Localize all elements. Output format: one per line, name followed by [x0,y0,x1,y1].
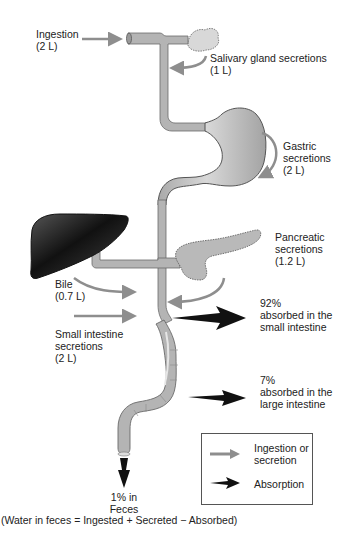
label-line: Gastric [283,140,331,152]
salivary-gland [188,28,219,51]
label-line: 7% [260,374,332,386]
label-line: Ingestion [36,28,79,40]
pancreatic-arrow [172,278,224,302]
label-line: secretions [275,243,325,255]
label-line: 92% [260,297,332,309]
label-line: (2 L) [36,40,79,52]
small-intestine-secretions-label: Small intestine secretions (2 L) [55,328,123,364]
large-intestine [118,320,178,456]
label-line: Bile [55,278,85,290]
legend-item-secretion: Ingestion or secretion [254,442,309,466]
label-line: secretions [283,152,331,164]
label-line: small intestine [260,321,332,333]
liver [31,214,128,279]
label-line: Salivary gland secretions [210,52,327,64]
label-line: (2 L) [55,352,123,364]
gray-arrow-icon [208,448,244,460]
stomach [158,108,266,205]
salivary-arrow [174,56,206,68]
pancreatic-label: Pancreatic secretions (1.2 L) [275,231,325,267]
gastric-label: Gastric secretions (2 L) [283,140,331,176]
label-line: absorbed in the [260,309,332,321]
legend-item-absorption: Absorption [254,478,304,490]
bile-label: Bile (0.7 L) [55,278,85,302]
large-intestine-absorption-label: 7% absorbed in the large intestine [260,374,332,410]
legend-label: Absorption [254,478,304,490]
salivary-label: Salivary gland secretions (1 L) [210,52,327,76]
equation-text: (Water in feces = Ingested + Secreted − … [1,514,237,526]
label-line: absorbed in the [260,386,332,398]
label-line: large intestine [260,398,332,410]
label-line: secretions [55,340,123,352]
pancreas [176,230,261,280]
label-line: Pancreatic [275,231,325,243]
legend-label: Ingestion or [254,442,309,454]
label-line: 1% in [104,491,144,503]
black-arrow-icon [208,476,244,490]
legend-box: Ingestion or secretion Absorption [201,433,313,505]
ingestion-label: Ingestion (2 L) [36,28,79,52]
label-line: (0.7 L) [55,290,85,302]
legend-label: secretion [254,454,309,466]
feces-arrow [118,458,130,488]
small-intestine-absorption-label: 92% absorbed in the small intestine [260,297,332,333]
small-intestine-absorption-arrow [172,306,246,330]
label-line: Small intestine [55,328,123,340]
feces-label: 1% in Feces [104,491,144,515]
large-intestine-absorption-arrow [188,390,246,406]
label-line: (1 L) [210,64,327,76]
label-line: (1.2 L) [275,255,325,267]
label-line: (2 L) [283,164,331,176]
